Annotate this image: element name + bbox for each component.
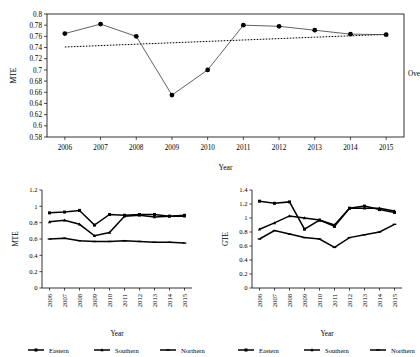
y-tick-label: 0.58 <box>29 134 42 142</box>
x-tick-label: 2009 <box>91 293 98 307</box>
x-tick-label: 2010 <box>106 293 113 307</box>
regional-mte-plot-area: 00.20.40.60.811.220062007200820092010201… <box>12 186 206 353</box>
y-tick-label: 0.74 <box>29 44 42 52</box>
series-line-northern <box>50 238 185 243</box>
y-tick-label: 0.2 <box>29 268 37 275</box>
x-tick-label: 2008 <box>129 144 144 152</box>
x-tick-label: 2010 <box>200 144 215 152</box>
overall-data-point <box>62 31 67 36</box>
data-point-northern <box>168 242 172 243</box>
overall-series-line <box>65 24 386 95</box>
overall-data-point <box>170 93 175 98</box>
data-point-northern <box>273 230 277 231</box>
y-tick-label: 0.6 <box>33 122 42 130</box>
x-tick-label: 2014 <box>376 293 383 307</box>
y-tick-label: 0.64 <box>29 100 42 108</box>
x-axis-title: Year <box>110 330 124 338</box>
series-line-southern <box>260 208 395 229</box>
y-axis-title: GTE <box>222 231 230 246</box>
y-tick-label: 1.4 <box>239 186 248 193</box>
overall-data-point <box>277 24 282 29</box>
data-point-northern <box>63 238 67 239</box>
regional-mte-chart: 00.20.40.60.811.220062007200820092010201… <box>0 180 210 357</box>
overall-data-point <box>384 32 389 37</box>
overall-data-point <box>241 23 246 28</box>
y-tick-label: 0.78 <box>29 22 42 30</box>
overall-data-point <box>134 34 139 39</box>
x-tick-label: 2008 <box>76 293 83 307</box>
x-tick-label: 2011 <box>121 294 128 307</box>
regional-gte-plot: 00.20.40.60.811.21.420062007200820092010… <box>210 180 420 357</box>
overall-data-point <box>205 68 210 73</box>
data-point-eastern <box>303 228 306 231</box>
y-axis-title: MTE <box>12 231 20 247</box>
legend-label-eastern: Eastern <box>49 347 69 354</box>
x-tick-label: 2011 <box>331 294 338 307</box>
data-point-eastern <box>48 211 51 214</box>
x-tick-label: 2009 <box>301 293 308 307</box>
legend-marker-eastern <box>245 349 248 352</box>
y-tick-label: 0.6 <box>239 242 248 249</box>
y-tick-label: 0.6 <box>29 235 38 242</box>
data-point-northern <box>183 242 187 243</box>
x-tick-label: 2014 <box>166 293 173 307</box>
data-point-northern <box>378 231 382 232</box>
series-line-southern <box>50 215 185 235</box>
x-axis-title: Year <box>219 163 233 172</box>
x-tick-label: 2012 <box>272 144 287 152</box>
overall-data-point <box>98 22 103 27</box>
x-tick-label: 2014 <box>343 144 358 152</box>
y-tick-label: 0 <box>244 284 248 291</box>
y-tick-label: 0 <box>34 284 38 291</box>
data-point-northern <box>78 240 82 241</box>
overall-mte-plot: 0.580.60.620.640.660.680.70.720.740.760.… <box>0 0 420 180</box>
y-tick-label: 1 <box>244 214 247 221</box>
y-tick-label: 0.68 <box>29 78 42 86</box>
legend-marker-northern <box>376 349 380 350</box>
y-tick-label: 0.8 <box>29 219 38 226</box>
data-point-eastern <box>93 224 96 227</box>
y-tick-label: 1 <box>34 203 37 210</box>
legend-marker-eastern <box>35 349 38 352</box>
x-tick-label: 2007 <box>93 144 108 152</box>
x-tick-label: 2013 <box>361 293 368 307</box>
trend-line <box>65 34 386 47</box>
data-point-northern <box>123 240 127 241</box>
data-point-northern <box>48 238 52 239</box>
y-tick-label: 0.7 <box>33 67 42 75</box>
data-point-eastern <box>78 209 81 212</box>
overall-data-point <box>348 32 353 37</box>
x-tick-label: 2012 <box>346 294 353 307</box>
overall-data-point <box>312 28 317 33</box>
x-tick-label: 2007 <box>271 293 278 307</box>
data-point-northern <box>303 237 307 238</box>
x-tick-label: 2015 <box>391 293 398 307</box>
series-line-eastern <box>260 201 395 229</box>
legend-label-northern: Northern <box>181 347 206 354</box>
overall-mte-chart: 0.580.60.620.640.660.680.70.720.740.760.… <box>0 0 420 180</box>
y-tick-label: 0.76 <box>29 33 42 41</box>
x-tick-label: 2006 <box>58 144 73 152</box>
x-tick-label: 2007 <box>61 293 68 307</box>
side-annotation: Overall <box>408 70 420 78</box>
data-point-northern <box>153 242 157 243</box>
y-tick-label: 0.4 <box>239 256 248 263</box>
y-tick-label: 0.72 <box>29 55 42 63</box>
x-tick-label: 2006 <box>256 293 263 307</box>
x-tick-label: 2006 <box>46 293 53 307</box>
legend-label-northern: Northern <box>391 347 416 354</box>
data-point-eastern <box>108 213 111 216</box>
data-point-eastern <box>258 200 261 203</box>
overall-plot-area: 0.580.60.620.640.660.680.70.720.740.760.… <box>9 11 420 172</box>
x-tick-label: 2015 <box>181 293 188 307</box>
data-point-northern <box>393 224 397 225</box>
data-point-eastern <box>63 211 66 214</box>
y-tick-label: 0.2 <box>239 270 247 277</box>
y-tick-label: 0.66 <box>29 89 42 97</box>
legend-label-eastern: Eastern <box>259 347 279 354</box>
data-point-northern <box>348 237 352 238</box>
y-tick-label: 0.8 <box>33 11 42 19</box>
x-tick-label: 2008 <box>286 293 293 307</box>
series-line-northern <box>260 224 395 247</box>
x-tick-label: 2012 <box>136 294 143 307</box>
